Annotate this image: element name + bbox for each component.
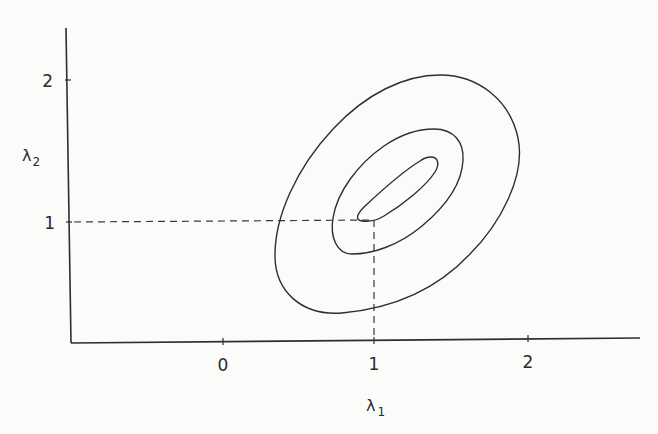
contours: [275, 75, 519, 313]
reference-line-horizontal: [74, 220, 374, 222]
axes: [66, 28, 640, 343]
contour-outer: [275, 75, 519, 313]
y-axis-label-sub: 2: [32, 155, 40, 169]
x-axis-label-sub: 1: [377, 405, 385, 419]
y-tick-label-2: 2: [42, 71, 53, 91]
y-axis-label-main: λ: [22, 146, 31, 165]
x-tick-label-1: 1: [369, 354, 380, 374]
contour-middle: [332, 129, 463, 254]
reference-lines: [74, 220, 374, 340]
x-tick-label-2: 2: [523, 352, 534, 372]
x-axis-label-main: λ: [366, 396, 375, 415]
y-axis: [66, 28, 71, 343]
tick-labels: 0 1 2 2 1: [42, 71, 533, 375]
y-axis-label: λ2: [22, 146, 40, 169]
x-axis-label: λ1: [366, 396, 385, 419]
x-tick-label-0: 0: [218, 355, 229, 375]
axis-labels: λ2 λ1: [22, 146, 385, 419]
contour-inner: [358, 157, 438, 221]
y-tick-label-1: 1: [44, 213, 55, 233]
ticks: [65, 80, 528, 345]
contour-chart: 0 1 2 2 1 λ2 λ1: [0, 0, 658, 434]
x-axis: [71, 338, 640, 343]
